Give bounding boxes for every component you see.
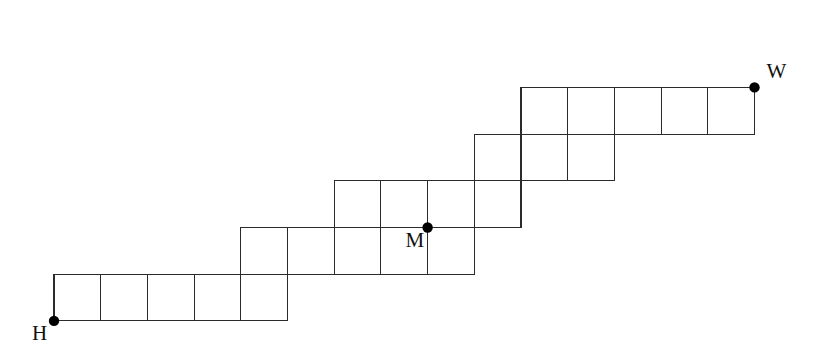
vertex-dot-w — [749, 82, 759, 92]
unit-square-cell — [614, 87, 661, 134]
unit-square-cell — [474, 134, 521, 181]
unit-square-cell — [241, 274, 288, 321]
unit-square-cell — [194, 274, 241, 321]
unit-square-cell — [147, 274, 194, 321]
unit-square-cell — [241, 228, 288, 275]
vertex-label-w: W — [767, 61, 787, 82]
unit-square-cell — [521, 134, 568, 181]
unit-square-cell — [474, 181, 521, 228]
unit-square-cell — [568, 134, 615, 181]
unit-square-cell — [428, 228, 475, 275]
unit-square-cell — [661, 87, 708, 134]
unit-square-cell — [334, 181, 381, 228]
vertex-label-h: H — [32, 323, 47, 344]
unit-square-cell — [428, 181, 475, 228]
unit-square-cell — [334, 228, 381, 275]
vertex-dot-h — [49, 316, 59, 326]
vertex-label-m: M — [406, 230, 425, 251]
unit-square-cells — [54, 87, 755, 321]
unit-square-cell — [708, 87, 755, 134]
unit-square-cell — [568, 87, 615, 134]
unit-square-cell — [521, 87, 568, 134]
lattice-figure: HMW — [0, 0, 819, 362]
lattice-grid-svg — [0, 0, 819, 362]
unit-square-cell — [381, 181, 428, 228]
unit-square-cell — [101, 274, 148, 321]
unit-square-cell — [288, 228, 335, 275]
unit-square-cell — [54, 274, 101, 321]
vertex-dots — [49, 82, 760, 326]
